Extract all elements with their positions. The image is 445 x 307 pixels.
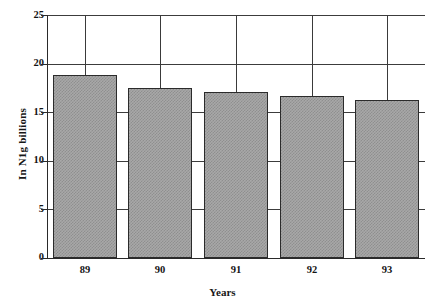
y-tick-mark-15 <box>41 112 48 113</box>
x-tick-label-90: 90 <box>140 264 180 275</box>
stem-89 <box>85 15 86 75</box>
y-tick-mark-10 <box>41 161 48 162</box>
bar-91 <box>204 92 268 258</box>
y-tick-mark-5 <box>41 209 48 210</box>
y-axis-line <box>47 15 48 258</box>
plot-area <box>47 15 425 258</box>
y-tick-mark-20 <box>41 64 48 65</box>
bar-89 <box>53 75 117 258</box>
x-tick-label-91: 91 <box>216 264 256 275</box>
x-tick-label-89: 89 <box>65 264 105 275</box>
x-tick-label-92: 92 <box>292 264 332 275</box>
x-axis-title: Years <box>0 286 445 298</box>
bar-93 <box>355 100 419 258</box>
stem-92 <box>312 15 313 96</box>
y-tick-mark-25 <box>41 15 48 16</box>
bar-92 <box>280 96 344 258</box>
stem-91 <box>236 15 237 92</box>
y-tick-mark-0 <box>41 258 48 259</box>
bar-90 <box>128 88 192 258</box>
bar-chart: In N1g billions 25 20 15 10 5 0 <box>0 0 445 307</box>
y-axis-tick-labels: 25 20 15 10 5 0 <box>18 0 44 307</box>
stem-93 <box>387 15 388 100</box>
axis-baseline <box>47 258 425 259</box>
x-tick-label-93: 93 <box>367 264 407 275</box>
stem-90 <box>160 15 161 88</box>
